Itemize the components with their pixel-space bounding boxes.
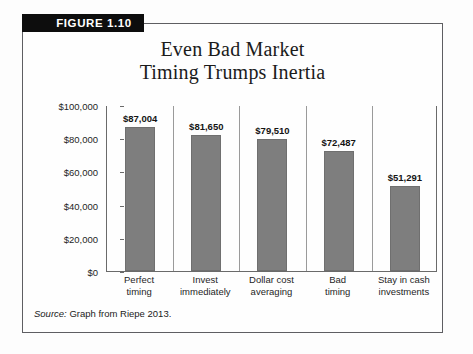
category-separator-line xyxy=(306,106,307,271)
y-axis-tick-label: $100,000 xyxy=(58,101,98,112)
bar[interactable] xyxy=(125,127,155,271)
bars-layer: $87,004$81,650$79,510$72,487$51,291 xyxy=(107,106,437,271)
bar[interactable] xyxy=(191,135,221,271)
figure-number-tab: FIGURE 1.10 xyxy=(22,14,144,32)
x-axis-category-label-line: Bad xyxy=(305,274,371,286)
y-axis-tick-mark xyxy=(120,272,124,273)
x-axis-category-label: Perfecttiming xyxy=(106,274,172,297)
x-axis-category-label: Stay in cashinvestments xyxy=(371,274,437,297)
x-axis-category-label-line: immediately xyxy=(172,286,238,298)
x-axis-category-label-line: Invest xyxy=(172,274,238,286)
bar-value-label: $72,487 xyxy=(322,137,356,148)
source-note: Source: Graph from Riepe 2013. xyxy=(34,308,171,319)
y-axis-tick-label: $0 xyxy=(87,267,98,278)
x-axis-category-label: Badtiming xyxy=(305,274,371,297)
x-axis-category-label-line: averaging xyxy=(238,286,304,298)
category-separator-line xyxy=(372,106,373,271)
bar-group: $79,510 xyxy=(239,106,305,271)
plot-area: Ending Wealth (1993–2012) $0$20,000$40,0… xyxy=(30,106,438,291)
x-axis-category-label-line: Dollar cost xyxy=(238,274,304,286)
bar-group: $87,004 xyxy=(107,106,173,271)
x-axis-category-label-line: timing xyxy=(305,286,371,298)
bar[interactable] xyxy=(390,186,420,271)
x-axis-category-label-line: Perfect xyxy=(106,274,172,286)
x-axis-category-label-line: Stay in cash xyxy=(371,274,437,286)
source-text: Graph from Riepe 2013. xyxy=(69,308,171,319)
category-separator-line xyxy=(173,106,174,271)
y-axis-tick-labels: $0$20,000$40,000$60,000$80,000$100,000 xyxy=(48,106,102,272)
chart-title-line-1: Even Bad Market xyxy=(24,38,441,61)
chart-title: Even Bad Market Timing Trumps Inertia xyxy=(24,38,441,84)
bar[interactable] xyxy=(324,151,354,271)
y-axis-tick-label: $80,000 xyxy=(64,134,98,145)
y-axis-tick-label: $20,000 xyxy=(64,233,98,244)
bar-value-label: $51,291 xyxy=(388,172,422,183)
source-label: Source: xyxy=(34,308,67,319)
bar-group: $81,650 xyxy=(173,106,239,271)
x-axis-category-label: Dollar costaveraging xyxy=(238,274,304,297)
x-axis-category-labels: PerfecttimingInvestimmediatelyDollar cos… xyxy=(106,274,437,302)
chart-axes: $87,004$81,650$79,510$72,487$51,291 xyxy=(106,106,437,272)
category-separator-line xyxy=(239,106,240,271)
figure-container: FIGURE 1.10 Even Bad Market Timing Trump… xyxy=(0,0,473,354)
y-axis-tick-label: $40,000 xyxy=(64,200,98,211)
bar-group: $72,487 xyxy=(306,106,372,271)
x-axis-category-label-line: investments xyxy=(371,286,437,298)
bar-value-label: $79,510 xyxy=(255,125,289,136)
x-axis-category-label-line: timing xyxy=(106,286,172,298)
bar-group: $51,291 xyxy=(372,106,438,271)
bar-value-label: $81,650 xyxy=(189,121,223,132)
y-axis-tick-label: $60,000 xyxy=(64,167,98,178)
x-axis-category-label: Investimmediately xyxy=(172,274,238,297)
chart-title-line-2: Timing Trumps Inertia xyxy=(24,61,441,84)
bar-value-label: $87,004 xyxy=(123,113,157,124)
bar[interactable] xyxy=(257,139,287,271)
